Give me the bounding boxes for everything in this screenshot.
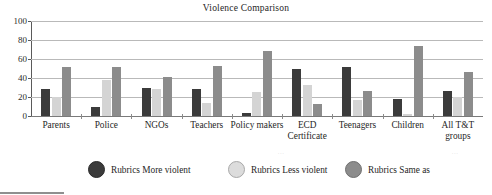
bar xyxy=(393,99,402,116)
x-category-label-line2: groups xyxy=(425,131,491,142)
x-category-label: All T&Tgroups xyxy=(425,120,491,142)
bar xyxy=(443,91,452,116)
bar xyxy=(202,103,211,116)
bar-group xyxy=(332,21,382,116)
x-category-label-line1: Police xyxy=(95,120,118,130)
bar-group xyxy=(383,21,433,116)
bar xyxy=(313,104,322,116)
scan-artifact-b: ... xyxy=(452,150,459,155)
bar-group xyxy=(31,21,81,116)
bar xyxy=(252,92,261,116)
legend-label: Rubrics Same as xyxy=(368,165,430,175)
bar xyxy=(263,51,272,116)
y-tick-mark-40 xyxy=(28,78,31,79)
legend-swatch-icon xyxy=(345,161,362,178)
bar xyxy=(192,89,201,116)
legend-item[interactable]: Rubrics Less violent xyxy=(228,161,327,178)
bar xyxy=(41,89,50,116)
legend-swatch-icon xyxy=(228,161,245,178)
bar-group xyxy=(433,21,483,116)
y-tick-label-100: 100 xyxy=(1,17,27,26)
legend-label: Rubrics More violent xyxy=(111,165,191,175)
bar xyxy=(91,107,100,116)
x-axis-tick xyxy=(332,114,333,119)
y-tick-label-60: 60 xyxy=(1,55,27,64)
bar xyxy=(102,80,111,116)
bar xyxy=(342,67,351,116)
violence-comparison-chart: Violence Comparison 020406080100 Parents… xyxy=(0,0,492,195)
bar xyxy=(142,88,151,116)
y-tick-mark-60 xyxy=(28,59,31,60)
y-tick-mark-100 xyxy=(28,21,31,22)
x-category-label-line1: Parents xyxy=(42,120,69,130)
chart-title: Violence Comparison xyxy=(0,3,492,13)
x-category-label-line1: Teenagers xyxy=(339,120,377,130)
legend-swatch-icon xyxy=(88,161,105,178)
y-tick-label-20: 20 xyxy=(1,93,27,102)
bar xyxy=(464,72,473,116)
bar-group xyxy=(182,21,232,116)
x-category-label-line1: Teachers xyxy=(190,120,223,130)
chart-legend: Rubrics More violentRubrics Less violent… xyxy=(0,161,492,183)
bar xyxy=(403,114,412,116)
legend-item[interactable]: Rubrics More violent xyxy=(88,161,191,178)
x-axis-tick xyxy=(282,114,283,119)
bar xyxy=(453,97,462,116)
x-category-label-line1: All T&T xyxy=(442,120,475,130)
bar-group xyxy=(232,21,282,116)
x-axis-tick xyxy=(81,114,82,119)
x-category-label-line2: Certificate xyxy=(274,131,340,142)
bar xyxy=(242,113,251,116)
plot-area xyxy=(31,21,483,117)
bar-group xyxy=(81,21,131,116)
x-category-label-line1: NGOs xyxy=(145,120,169,130)
bar xyxy=(52,97,61,116)
bar-group xyxy=(282,21,332,116)
bottom-rule xyxy=(0,192,64,194)
x-axis-tick xyxy=(232,114,233,119)
bar xyxy=(112,67,121,116)
y-tick-label-80: 80 xyxy=(1,36,27,45)
y-tick-mark-0 xyxy=(28,116,31,117)
x-axis-tick xyxy=(182,114,183,119)
bar xyxy=(152,89,161,116)
x-axis-tick xyxy=(433,114,434,119)
x-axis-tick xyxy=(383,114,384,119)
bar xyxy=(303,85,312,116)
bar xyxy=(353,100,362,116)
x-axis-tick xyxy=(131,114,132,119)
bar-group xyxy=(131,21,181,116)
legend-label: Rubrics Less violent xyxy=(251,165,327,175)
x-axis-line xyxy=(31,116,483,117)
y-tick-label-40: 40 xyxy=(1,74,27,83)
y-tick-mark-20 xyxy=(28,97,31,98)
bar xyxy=(163,77,172,116)
scan-artifact-a: ... xyxy=(278,150,285,155)
x-category-label-line1: ECD xyxy=(298,120,317,130)
bar xyxy=(363,91,372,116)
x-category-label-line1: Children xyxy=(391,120,424,130)
y-tick-mark-80 xyxy=(28,40,31,41)
bar xyxy=(292,69,301,116)
bar xyxy=(414,46,423,116)
bar xyxy=(213,66,222,116)
bar xyxy=(62,67,71,116)
legend-item[interactable]: Rubrics Same as xyxy=(345,161,430,178)
